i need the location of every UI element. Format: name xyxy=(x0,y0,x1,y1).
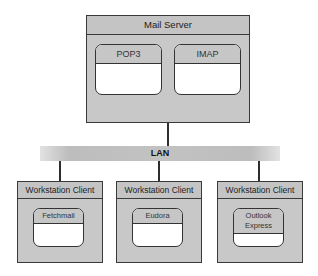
lan-bus: LAN xyxy=(40,146,280,161)
workstation-client-3: Workstation Client Outlook Express xyxy=(217,181,303,263)
workstation-client-1: Workstation Client Fetchmail xyxy=(17,181,103,263)
eudora-box: Eudora xyxy=(132,208,183,247)
pop3-label: POP3 xyxy=(96,45,161,64)
outlook-express-box: Outlook Express xyxy=(233,208,284,247)
workstation-client-2: Workstation Client Eudora xyxy=(116,181,202,263)
server-lan-connector xyxy=(167,123,169,146)
outlook-express-label-line1: Outlook xyxy=(234,211,283,221)
imap-box: IMAP xyxy=(174,44,241,95)
imap-label: IMAP xyxy=(175,45,240,64)
client-1-title: Workstation Client xyxy=(18,182,102,199)
outlook-express-label-line2: Express xyxy=(234,221,283,231)
lan-client1-connector xyxy=(59,161,61,181)
mail-server-box: Mail Server POP3 IMAP xyxy=(86,15,250,123)
mail-server-title: Mail Server xyxy=(87,16,249,35)
pop3-box: POP3 xyxy=(95,44,162,95)
outlook-express-label: Outlook Express xyxy=(234,209,283,234)
client-3-title: Workstation Client xyxy=(218,182,302,199)
lan-client3-connector xyxy=(258,161,260,181)
lan-client2-connector xyxy=(158,161,160,181)
fetchmail-label: Fetchmail xyxy=(34,209,83,224)
client-2-title: Workstation Client xyxy=(117,182,201,199)
fetchmail-box: Fetchmail xyxy=(33,208,84,247)
eudora-label: Eudora xyxy=(133,209,182,224)
